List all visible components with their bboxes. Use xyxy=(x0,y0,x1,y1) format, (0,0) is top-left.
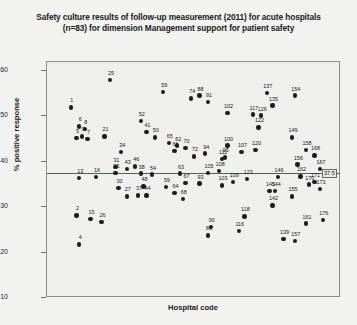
y-axis-tick-label: 30 xyxy=(0,202,8,209)
data-point-label: 44 xyxy=(144,185,150,191)
data-point xyxy=(256,125,260,129)
data-point xyxy=(312,153,316,157)
data-point xyxy=(253,148,257,152)
data-point xyxy=(167,141,171,145)
data-point xyxy=(181,197,185,201)
data-point-label: 103 xyxy=(219,175,228,181)
data-point xyxy=(237,229,241,233)
data-point-label: 5 xyxy=(76,128,79,134)
data-point-label: 109 xyxy=(230,172,239,178)
y-axis-tick-label: 10 xyxy=(0,293,8,300)
data-point-label: 59 xyxy=(164,177,170,183)
data-point-label: 91 xyxy=(206,92,212,98)
data-point xyxy=(80,134,84,138)
data-point-label: 27 xyxy=(125,186,131,192)
data-point xyxy=(267,189,271,193)
data-point xyxy=(144,130,148,134)
data-point xyxy=(172,149,176,153)
data-point xyxy=(189,96,193,100)
data-point-label: 59 xyxy=(161,82,167,88)
data-point-label: 142 xyxy=(269,195,278,201)
data-point-label: 162 xyxy=(297,166,306,172)
data-point-label: 41 xyxy=(144,122,150,128)
data-point xyxy=(94,175,98,179)
data-point-label: 48 xyxy=(142,176,148,182)
data-point xyxy=(206,171,210,175)
data-point xyxy=(290,135,294,139)
data-point xyxy=(197,181,201,185)
data-point-label: 157 xyxy=(291,231,300,237)
data-point xyxy=(178,171,182,175)
data-point xyxy=(298,174,302,178)
data-point xyxy=(293,239,297,243)
data-point-label: 126 xyxy=(258,106,267,112)
data-point-label: 52 xyxy=(139,111,145,117)
data-point xyxy=(206,100,210,104)
data-point-label: 7 xyxy=(87,129,90,135)
data-point xyxy=(108,78,112,82)
data-point xyxy=(99,220,103,224)
data-point xyxy=(290,194,294,198)
data-point-label: 61 xyxy=(172,141,178,147)
data-point-label: 155 xyxy=(289,186,298,192)
data-point-label: 94 xyxy=(203,144,209,150)
data-point-label: 74 xyxy=(189,88,195,94)
data-point-label: 46 xyxy=(133,156,139,162)
data-point-label: 149 xyxy=(289,127,298,133)
y-axis-tick-label: 60 xyxy=(0,66,8,73)
data-point-label: 54 xyxy=(150,165,156,171)
data-point-label: 72 xyxy=(192,146,198,152)
data-point-label: 2 xyxy=(76,205,79,211)
data-point-label: 173 xyxy=(317,179,326,185)
data-point xyxy=(69,105,73,109)
data-point-label: 111 xyxy=(219,149,227,155)
data-point-label: 139 xyxy=(280,229,289,235)
data-point xyxy=(197,93,201,97)
data-point xyxy=(116,186,120,190)
data-point-label: 144 xyxy=(272,181,281,187)
data-point xyxy=(85,137,89,141)
data-point-label: 8 xyxy=(84,119,87,125)
data-point-label: 13 xyxy=(77,168,83,174)
data-point xyxy=(102,134,106,138)
data-point-label: 6 xyxy=(79,116,82,122)
data-point-label: 105 xyxy=(205,163,214,169)
data-point xyxy=(161,90,165,94)
chart-title: Safety culture results of follow-up meas… xyxy=(0,12,357,33)
data-point xyxy=(77,176,81,180)
data-point-label: 93 xyxy=(198,174,204,180)
data-point xyxy=(77,242,81,246)
data-point xyxy=(239,150,243,154)
data-point xyxy=(307,182,311,186)
data-point-label: 135 xyxy=(269,96,278,102)
data-point xyxy=(206,233,210,237)
data-point xyxy=(74,213,78,217)
data-point-label: 43 xyxy=(125,159,131,165)
data-point-label: 89 xyxy=(206,225,212,231)
data-point-label: 146 xyxy=(275,167,284,173)
data-point xyxy=(183,146,187,150)
data-point-label: 50 xyxy=(153,127,159,133)
data-point xyxy=(113,171,117,175)
data-point-label: 35 xyxy=(114,163,120,169)
chart-title-line-1: Safety culture results of follow-up meas… xyxy=(14,12,343,23)
data-point-label: 65 xyxy=(167,133,173,139)
data-point-label: 170 xyxy=(305,175,314,181)
data-point xyxy=(125,194,129,198)
data-point-label: 63 xyxy=(178,164,184,170)
data-point-label: 90 xyxy=(209,217,215,223)
reference-line xyxy=(47,173,339,174)
data-point-label: 1 xyxy=(70,97,73,103)
y-axis-tick-label: 40 xyxy=(0,157,8,164)
data-point-label: 167 xyxy=(317,159,326,165)
data-point-label: 88 xyxy=(198,86,204,92)
data-point xyxy=(150,172,154,176)
data-point xyxy=(245,177,249,181)
data-point-label: 123 xyxy=(244,169,253,175)
data-point-label: 168 xyxy=(311,145,320,151)
data-point xyxy=(139,119,143,123)
data-point xyxy=(276,175,280,179)
data-point xyxy=(273,189,277,193)
data-point xyxy=(321,218,325,222)
data-point xyxy=(164,185,168,189)
